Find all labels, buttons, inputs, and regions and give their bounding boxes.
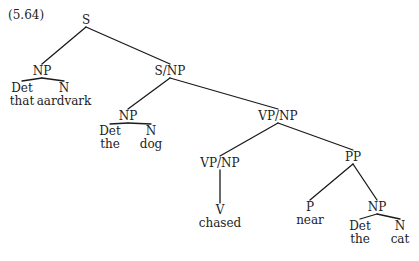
edge-s-snp: [86, 27, 170, 64]
edge-s-np1: [42, 27, 86, 64]
word-det1: that: [10, 94, 35, 108]
node-pp: PP: [345, 150, 361, 164]
edge-vpnp1-vpnp2: [220, 123, 278, 156]
word-n2: dog: [140, 137, 163, 151]
node-s: S: [82, 13, 90, 27]
node-snp: S/NP: [155, 64, 186, 78]
syntax-tree: (5.64) SNPDetthatNaardvarkS/NPNPDettheNd…: [0, 0, 419, 261]
edge-snp-np2: [128, 78, 170, 109]
edge-vpnp1-pp: [278, 123, 353, 150]
edge-snp-vpnp1: [170, 78, 278, 109]
edge-pp-np3: [353, 164, 377, 200]
node-vpnp1: VP/NP: [257, 109, 297, 123]
word-p: near: [296, 213, 324, 227]
node-np2: NP: [119, 109, 138, 123]
word-n1: aardvark: [37, 94, 92, 108]
word-v: chased: [199, 216, 242, 230]
word-det3: the: [350, 232, 370, 246]
node-np3: NP: [368, 200, 387, 214]
node-vpnp2: VP/NP: [199, 156, 239, 170]
tree-nodes: SNPDetthatNaardvarkS/NPNPDettheNdogVP/NP…: [10, 13, 410, 246]
tree-edges: [22, 27, 400, 219]
example-number: (5.64): [8, 8, 44, 22]
word-det2: the: [100, 137, 120, 151]
node-np1: NP: [33, 64, 52, 78]
word-n3: cat: [391, 232, 410, 246]
edge-pp-p: [310, 164, 353, 200]
